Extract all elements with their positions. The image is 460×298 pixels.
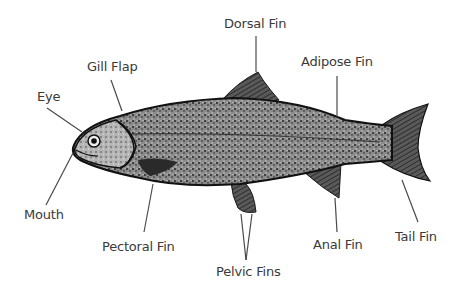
fish-illustration: [0, 0, 460, 298]
label-pectoral-fin: Pectoral Fin: [102, 239, 175, 254]
label-eye: Eye: [37, 89, 60, 104]
label-anal-fin: Anal Fin: [313, 237, 363, 252]
label-gill-flap: Gill Flap: [87, 59, 138, 74]
fish-anatomy-diagram: Dorsal Fin Adipose Fin Gill Flap Eye Mou…: [0, 0, 460, 298]
label-tail-fin: Tail Fin: [395, 229, 437, 244]
label-pelvic-fins: Pelvic Fins: [216, 264, 281, 279]
label-mouth: Mouth: [24, 207, 64, 222]
label-adipose-fin: Adipose Fin: [301, 54, 373, 69]
label-dorsal-fin: Dorsal Fin: [224, 16, 286, 31]
pelvic-fins-shape: [231, 182, 256, 213]
